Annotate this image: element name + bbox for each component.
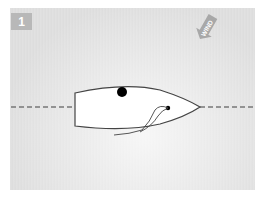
crew-dot-icon — [117, 87, 127, 97]
wind-arrow-icon: WIND — [192, 12, 221, 44]
boat-hull — [75, 87, 200, 129]
sailing-diagram: WIND — [0, 0, 264, 198]
